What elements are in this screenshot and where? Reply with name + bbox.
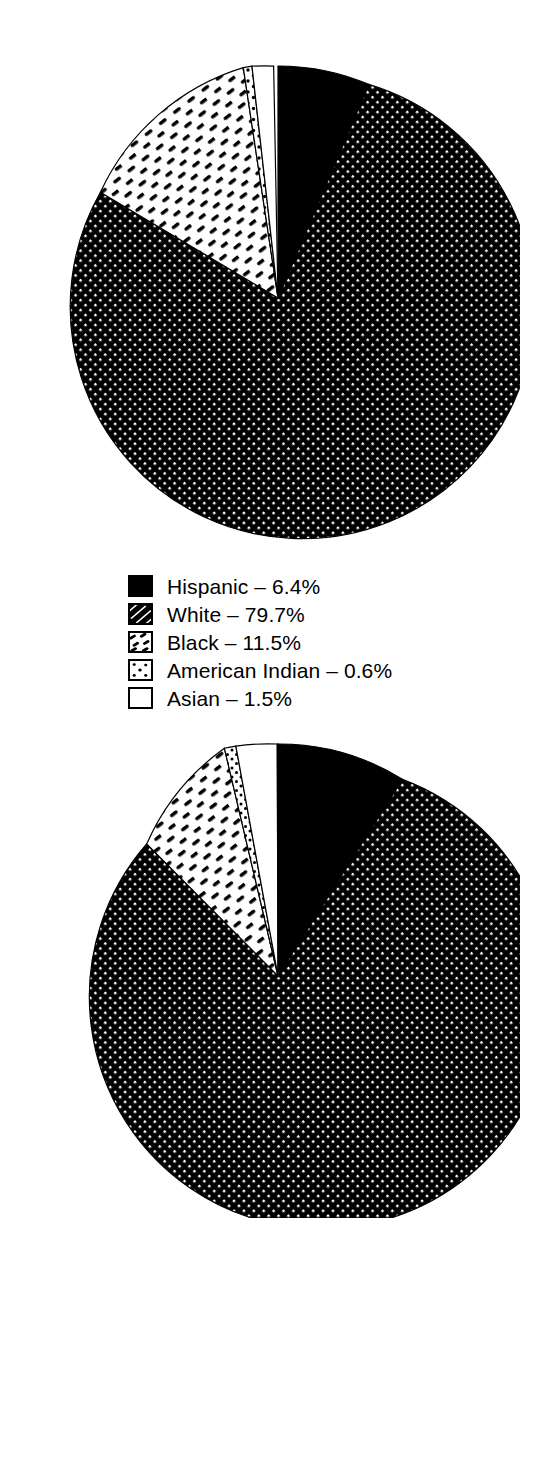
legend-swatch-solid-black-icon	[128, 575, 153, 597]
pie-slices-top	[70, 66, 520, 539]
pie-slices-bottom	[89, 744, 520, 1218]
pie-chart-bottom	[0, 682, 542, 1182]
legend-swatch-diagonal-hatch-icon	[128, 603, 153, 625]
pie-svg-top	[36, 56, 520, 540]
pie-svg-bottom	[36, 734, 520, 1218]
legend-item[interactable]: Black – 11.5%	[128, 628, 528, 656]
legend-item[interactable]: White – 79.7%	[128, 600, 528, 628]
legend-label: American Indian – 0.6%	[167, 659, 392, 682]
pie-slice-other[interactable]	[277, 744, 278, 976]
legend-label: White – 79.7%	[167, 603, 305, 626]
legend-swatch-dots-icon	[128, 659, 153, 681]
page-root: Hispanic – 6.4% White – 79.7%	[0, 0, 542, 1472]
pie-chart-top	[0, 0, 542, 500]
legend-swatch-dashes-icon	[128, 631, 153, 653]
legend-label: Hispanic – 6.4%	[167, 575, 320, 598]
legend-label: Black – 11.5%	[167, 631, 301, 654]
pie-chart-block-top: Hispanic – 6.4% White – 79.7%	[0, 0, 542, 500]
pie-chart-block-bottom: Hispanic – 9% White – 75.6%	[0, 682, 542, 1182]
legend-item[interactable]: Hispanic – 6.4%	[128, 572, 528, 600]
legend-item[interactable]: American Indian – 0.6%	[128, 656, 528, 684]
